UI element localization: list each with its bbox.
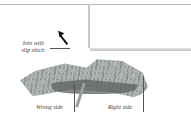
label-join-line1: Join with xyxy=(16,40,50,47)
vertical-needle xyxy=(88,4,90,48)
horizontal-needle xyxy=(90,48,191,51)
arrowhead-icon xyxy=(56,29,64,37)
leader-line-wrong-side xyxy=(74,84,75,112)
needle-top-line xyxy=(0,4,191,5)
leader-line-join xyxy=(50,48,70,49)
label-right-side: Right side xyxy=(108,104,132,111)
leader-line-right-side xyxy=(143,76,144,112)
label-wrong-side: Wrong side xyxy=(36,104,63,111)
label-join-with-slip-stitch: Join with slip stitch xyxy=(16,40,50,54)
label-join-line2: slip stitch xyxy=(16,47,50,54)
